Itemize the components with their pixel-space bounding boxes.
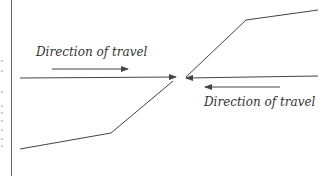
direction-label-left: Direction of travel — [36, 45, 147, 59]
direction-label-right: Direction of travel — [204, 95, 315, 109]
diagram-canvas: Direction of travel Direction of travel — [0, 0, 333, 176]
diagram-graphic — [0, 0, 333, 176]
cropped-text-fragments — [1, 60, 3, 147]
lower-left-curve — [20, 81, 173, 149]
upper-right-curve — [186, 10, 318, 77]
right-track-line — [186, 76, 318, 78]
left-track-line — [20, 77, 176, 78]
